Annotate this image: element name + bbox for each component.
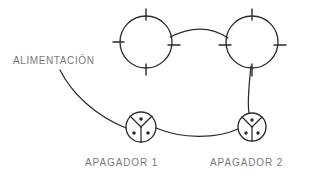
- supply-label: ALIMENTACIÓN: [13, 55, 94, 66]
- switch-1-terminal-left: [132, 131, 136, 135]
- switch-1-terminal-right: [146, 131, 150, 135]
- switch-2-terminal-right: [256, 131, 259, 134]
- lamp-symbol-1: [113, 9, 180, 75]
- wire-supply-to-switch-1: [60, 70, 126, 128]
- switch-symbol-2: [238, 113, 266, 141]
- lamp-symbol-2: [219, 9, 286, 76]
- lamp-2-circle: [226, 16, 278, 68]
- switch-2-divider-arm-right: [252, 117, 262, 127]
- wire-switch-2-to-lamp-2: [248, 66, 251, 113]
- wiring-diagram-canvas: [0, 0, 315, 178]
- switch-2-terminal-left: [244, 131, 247, 134]
- lamp-1-circle: [120, 16, 172, 68]
- switch-2-divider-arm-left: [242, 117, 252, 127]
- switch-1-terminal-top: [139, 117, 143, 121]
- switch-2-terminal-top: [250, 118, 253, 121]
- switch-1-divider-arm-right: [141, 116, 152, 127]
- wire-switch-1-to-switch-2: [156, 128, 238, 136]
- wire-lamp-1-to-lamp-2: [170, 29, 228, 38]
- switch-1-label: APAGADOR 1: [85, 157, 158, 168]
- switch-symbol-1: [126, 112, 156, 142]
- switch-2-label: APAGADOR 2: [210, 157, 283, 168]
- switch-1-divider-arm-left: [130, 116, 141, 127]
